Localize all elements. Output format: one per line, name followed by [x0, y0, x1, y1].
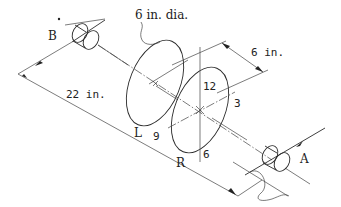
dim-6-ext-line-right [217, 70, 268, 93]
shaft-segment-a [285, 168, 310, 184]
disk-left-label: L [134, 126, 142, 140]
bearing-b-top-edge [75, 25, 86, 32]
bearing-a-top-edge [265, 146, 277, 153]
bearing-b-front-face [80, 28, 102, 52]
bearing-a-label: A [299, 152, 309, 166]
disk-diameter-label: 6 in. dia. [135, 8, 188, 22]
vibration-wave [250, 171, 289, 201]
disk-left-center-mark [153, 81, 158, 86]
dim-22-label: 22 in. [66, 88, 106, 101]
shaft-segment-b [98, 45, 128, 65]
dim-22-end-leg [238, 180, 262, 196]
dim-6-ext-line-left [172, 41, 226, 65]
bearing-a-axis-line [245, 128, 325, 175]
clock-6: 6 [203, 148, 210, 161]
support-line [233, 162, 288, 196]
disk-right-label: R [176, 156, 186, 170]
bearing-a: A [245, 128, 325, 175]
dimension-22in: 22 in. [18, 42, 262, 196]
dim-6-label: 6 in. [251, 46, 284, 59]
arrow-icon [228, 188, 236, 195]
disk-left: L [115, 32, 195, 140]
clock-12: 12 [203, 80, 216, 93]
bearing-a-back-face [259, 143, 281, 167]
rotor-diagram: B 22 in. 6 in. dia. L 12 3 6 9 R [0, 0, 341, 207]
diameter-leader-squiggle [141, 22, 160, 44]
disk-right-axis-line [212, 118, 247, 140]
clock-3: 3 [234, 97, 241, 110]
bearing-b-label: B [48, 29, 57, 43]
bearing-b-dot [58, 18, 60, 20]
dim-22-upper-leg [18, 42, 72, 74]
disk-left-axis-line [156, 86, 178, 100]
bearing-b: B [48, 18, 105, 52]
clock-9: 9 [153, 130, 160, 143]
disk-right: 12 3 6 9 R [153, 47, 247, 170]
bearing-a-front-face [271, 150, 293, 174]
